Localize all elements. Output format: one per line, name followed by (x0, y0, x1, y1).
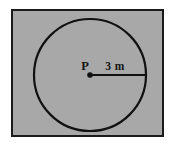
radius-measure-label: 3 m (105, 60, 124, 72)
circle-radius-diagram: P 3 m (0, 0, 173, 146)
center-point-dot (87, 72, 93, 78)
diagram-canvas: P 3 m (0, 0, 173, 146)
center-point-label: P (81, 59, 89, 73)
